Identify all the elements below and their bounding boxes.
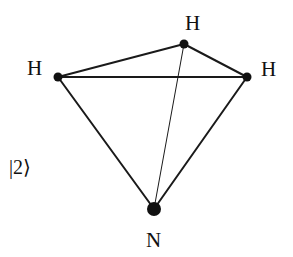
atom-h-top	[180, 40, 189, 49]
label-n: N	[146, 228, 161, 252]
atom-n	[147, 202, 161, 216]
atom-h-left	[54, 73, 63, 82]
bond-h-top-n	[154, 44, 184, 209]
labels: H H H N |2⟩	[9, 11, 276, 252]
bond-h-right-n	[154, 77, 247, 209]
bond-h-left-h-top	[58, 44, 184, 77]
label-h-left: H	[27, 56, 42, 80]
atom-h-right	[243, 73, 252, 82]
bonds	[58, 44, 247, 209]
bond-h-left-n	[58, 77, 154, 209]
state-ket-label: |2⟩	[9, 156, 31, 179]
atoms	[54, 40, 252, 217]
ammonia-molecule-diagram: H H H N |2⟩	[0, 0, 293, 257]
label-h-right: H	[261, 57, 276, 81]
label-h-top: H	[185, 11, 200, 35]
bond-h-top-h-right	[184, 44, 247, 77]
